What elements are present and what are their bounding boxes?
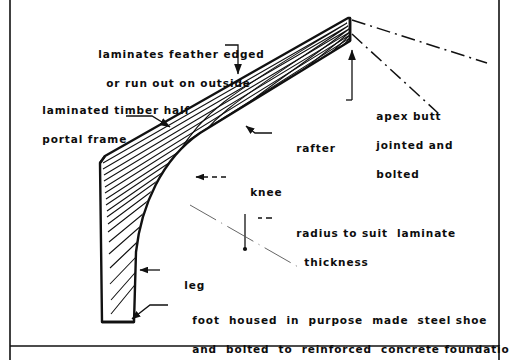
annotation-laminates-line1: laminates feather edged	[98, 48, 265, 60]
annotation-rafter: rafter	[278, 126, 336, 170]
leader-foot	[132, 305, 168, 319]
annotation-frame-line2: portal frame	[42, 133, 127, 145]
annotation-foot-line1: foot housed in purpose made steel shoe	[192, 314, 487, 326]
leader-rafter	[246, 126, 272, 133]
annotation-frame: laminated timber half portal frame	[24, 88, 190, 161]
annotation-foot: foot housed in purpose made steel shoe a…	[174, 298, 510, 360]
annotation-rafter-label: rafter	[296, 142, 336, 154]
annotation-radius-line2: thickness	[304, 255, 369, 270]
annotation-apex-line1: apex butt	[376, 110, 441, 122]
radius-centre-dot	[243, 247, 247, 251]
annotation-leg-label: leg	[184, 279, 205, 291]
annotation-apex-line3: bolted	[376, 168, 419, 180]
annotation-radius-line1: radius to suit laminate	[296, 227, 456, 239]
annotation-radius: radius to suit laminate thickness	[278, 211, 456, 284]
drawing-canvas: laminates feather edged or run out on ou…	[0, 0, 510, 360]
annotation-foot-line2: and bolted to reinforced concrete founda…	[192, 343, 510, 355]
annotation-apex-line2: jointed and	[376, 139, 453, 151]
annotation-knee-label: knee	[250, 186, 282, 198]
annotation-knee: knee	[232, 170, 283, 214]
annotation-apex: apex butt jointed and bolted	[358, 94, 453, 196]
annotation-frame-line1: laminated timber half	[42, 104, 190, 116]
